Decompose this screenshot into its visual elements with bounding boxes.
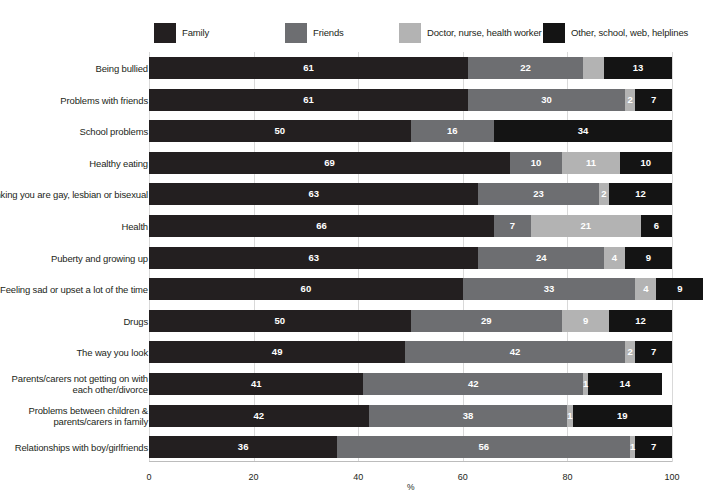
bar-segment-friends[interactable]: 42 <box>405 341 625 363</box>
x-tick-80: 80 <box>562 472 572 482</box>
bar-segment-other[interactable]: 7 <box>635 436 672 458</box>
stacked-bar[interactable]: 6323212 <box>149 183 672 205</box>
bar-segment-doctor[interactable]: 2 <box>625 89 635 111</box>
bar-value-label: 63 <box>308 253 319 263</box>
stacked-bar[interactable]: 612213 <box>149 57 672 79</box>
category-label-line: Relationships with boy/girlfriends <box>0 442 148 453</box>
legend-label-family: Family <box>182 28 209 38</box>
legend-item-doctor[interactable]: Doctor, nurse, health worker <box>399 23 542 43</box>
legend-item-family[interactable]: Family <box>154 23 209 43</box>
bar-value-label: 33 <box>544 284 555 294</box>
bar-segment-family[interactable]: 36 <box>149 436 337 458</box>
stacked-bar[interactable]: 613027 <box>149 89 672 111</box>
bar-segment-doctor[interactable]: 2 <box>625 341 635 363</box>
bar-segment-family[interactable]: 61 <box>149 89 468 111</box>
stacked-bar[interactable]: 365617 <box>149 436 672 458</box>
bar-segment-other[interactable]: 13 <box>604 57 672 79</box>
legend-item-friends[interactable]: Friends <box>285 23 344 43</box>
bar-segment-family[interactable]: 66 <box>149 215 494 237</box>
bar-segment-friends[interactable]: 33 <box>463 278 636 300</box>
bar-segment-other[interactable]: 12 <box>609 310 672 332</box>
bar-segment-doctor[interactable] <box>583 57 604 79</box>
bar-value-label: 13 <box>633 63 644 73</box>
bar-segment-family[interactable]: 42 <box>149 405 369 427</box>
bar-segment-other[interactable]: 7 <box>635 89 672 111</box>
bar-value-label: 50 <box>274 316 285 326</box>
bar-segment-family[interactable]: 50 <box>149 310 411 332</box>
bar-segment-family[interactable]: 60 <box>149 278 463 300</box>
legend-item-other[interactable]: Other, school, web, helplines <box>543 23 688 43</box>
bar-segment-doctor[interactable]: 11 <box>562 152 620 174</box>
bar-segment-other[interactable]: 9 <box>625 247 672 269</box>
bar-segment-other[interactable]: 9 <box>656 278 703 300</box>
bar-row: Problems between children &parents/carer… <box>0 405 682 427</box>
stacked-bar[interactable]: 632449 <box>149 247 672 269</box>
bar-segment-other[interactable]: 12 <box>609 183 672 205</box>
bar-segment-doctor[interactable]: 4 <box>635 278 656 300</box>
bar-row: Being bullied612213 <box>0 57 682 79</box>
category-label: The way you look <box>0 347 148 358</box>
category-label-line: Thinking you are gay, lesbian or bisexua… <box>0 189 148 200</box>
bar-value-label: 56 <box>478 442 489 452</box>
bar-segment-family[interactable]: 61 <box>149 57 468 79</box>
bar-segment-friends[interactable]: 56 <box>337 436 630 458</box>
stacked-bar[interactable]: 4238119 <box>149 405 672 427</box>
bar-row: Feeling sad or upset a lot of the time60… <box>0 278 682 300</box>
bar-segment-other[interactable]: 14 <box>588 373 661 395</box>
bar-segment-friends[interactable]: 24 <box>478 247 604 269</box>
bar-value-label: 9 <box>646 253 651 263</box>
bar-segment-friends[interactable]: 38 <box>369 405 568 427</box>
bar-segment-family[interactable]: 50 <box>149 120 411 142</box>
stacked-bar[interactable]: 69101110 <box>149 152 672 174</box>
stacked-bar[interactable]: 4142114 <box>149 373 662 395</box>
stacked-bar[interactable]: 603349 <box>149 278 703 300</box>
bar-value-label: 12 <box>635 189 646 199</box>
bar-segment-friends[interactable]: 22 <box>468 57 583 79</box>
bar-value-label: 22 <box>520 63 531 73</box>
stacked-bar[interactable]: 494227 <box>149 341 672 363</box>
category-label-line: Drugs <box>0 315 148 326</box>
stacked-bar[interactable]: 5029912 <box>149 310 672 332</box>
x-tick-60: 60 <box>458 472 468 482</box>
bar-segment-doctor[interactable]: 2 <box>599 183 609 205</box>
bar-segment-friends[interactable]: 10 <box>510 152 562 174</box>
bar-segment-doctor[interactable]: 21 <box>531 215 641 237</box>
bar-value-label: 1 <box>583 379 588 389</box>
stacked-bar[interactable]: 501634 <box>149 120 672 142</box>
bar-value-label: 49 <box>272 347 283 357</box>
bar-segment-friends[interactable]: 23 <box>478 183 598 205</box>
bar-segment-friends[interactable]: 42 <box>363 373 583 395</box>
bar-value-label: 21 <box>580 221 591 231</box>
bar-segment-family[interactable]: 63 <box>149 247 478 269</box>
category-label-line: The way you look <box>0 347 148 358</box>
bar-segment-doctor[interactable]: 9 <box>562 310 609 332</box>
bar-segment-family[interactable]: 49 <box>149 341 405 363</box>
bar-segment-friends[interactable]: 29 <box>411 310 563 332</box>
bar-segment-other[interactable]: 7 <box>635 341 672 363</box>
category-label: Puberty and growing up <box>0 252 148 263</box>
bar-segment-other[interactable]: 34 <box>494 120 672 142</box>
category-label: Problems with friends <box>0 94 148 105</box>
legend-swatch-other <box>543 23 565 43</box>
stacked-bar[interactable]: 667216 <box>149 215 672 237</box>
category-label: School problems <box>0 126 148 137</box>
bar-segment-other[interactable]: 6 <box>641 215 672 237</box>
category-label-line: Parents/carers not getting on with <box>0 373 148 384</box>
bar-segment-other[interactable]: 19 <box>573 405 672 427</box>
bar-segment-friends[interactable]: 30 <box>468 89 625 111</box>
bar-segment-friends[interactable]: 16 <box>411 120 495 142</box>
bar-value-label: 24 <box>536 253 547 263</box>
x-axis-title: % <box>407 482 415 492</box>
bar-segment-family[interactable]: 41 <box>149 373 363 395</box>
bar-segment-family[interactable]: 69 <box>149 152 510 174</box>
bar-value-label: 42 <box>510 347 521 357</box>
category-label-line: Problems between children & <box>0 405 148 416</box>
bar-segment-doctor[interactable]: 4 <box>604 247 625 269</box>
bar-segment-other[interactable]: 10 <box>620 152 672 174</box>
category-label: Parents/carers not getting on witheach o… <box>0 373 148 395</box>
legend-swatch-doctor <box>399 23 421 43</box>
bar-segment-family[interactable]: 63 <box>149 183 478 205</box>
bar-value-label: 10 <box>641 158 652 168</box>
bar-segment-friends[interactable]: 7 <box>494 215 531 237</box>
bar-value-label: 7 <box>651 95 656 105</box>
